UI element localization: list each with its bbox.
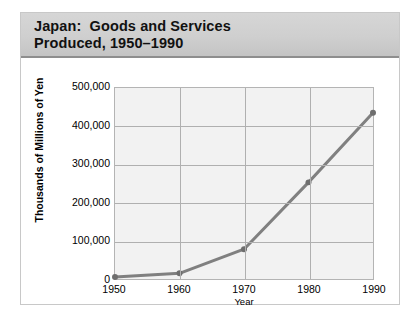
y-tick-label: 100,000	[24, 234, 110, 246]
x-gridline	[180, 88, 181, 279]
y-tick-label: 200,000	[24, 196, 110, 208]
chart-region: Thousands of Millions of Yen 0100,000200…	[21, 60, 399, 304]
data-point-marker	[306, 179, 312, 185]
chart-page: Japan: Goods and ServicesProduced, 1950–…	[0, 0, 420, 321]
x-tick-label: 1990	[344, 283, 404, 295]
chart-title-line-2: Produced, 1950–1990	[34, 35, 183, 51]
y-tick-label: 300,000	[24, 157, 110, 169]
x-gridline	[245, 88, 246, 279]
x-tick-label: 1980	[279, 283, 339, 295]
y-tick-label: 400,000	[24, 119, 110, 131]
chart-title-bar: Japan: Goods and ServicesProduced, 1950–…	[21, 13, 399, 58]
x-tick-label: 1970	[214, 283, 274, 295]
page-title: Japan: Goods and ServicesProduced, 1950–…	[34, 18, 231, 51]
chart-card: Japan: Goods and ServicesProduced, 1950–…	[20, 12, 400, 305]
chart-title-line-1: Japan: Goods and Services	[34, 18, 231, 34]
data-point-marker	[112, 274, 118, 280]
y-axis-ticks: 0100,000200,000300,000400,000500,000	[21, 87, 110, 280]
x-tick-label: 1950	[84, 283, 144, 295]
x-gridline	[310, 88, 311, 279]
x-tick-label: 1960	[149, 283, 209, 295]
plot-area	[114, 87, 374, 280]
data-point-marker	[370, 110, 376, 116]
x-axis-title: Year	[114, 296, 374, 307]
y-tick-label: 500,000	[24, 80, 110, 92]
